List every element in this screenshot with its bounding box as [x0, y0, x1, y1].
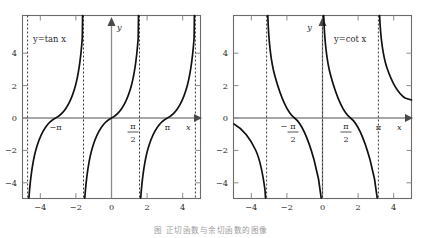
cot-branch-far-left	[234, 124, 266, 198]
chart-panel-tangent: 4 2 0 −2 −4 −4 −2 0 2 4 y=tan x y x −π π…	[0, 0, 211, 238]
tangent-plot-svg: 4 2 0 −2 −4 −4 −2 0 2 4 y=tan x y x −π π…	[0, 0, 211, 238]
pi-over-2-numerator: π	[130, 121, 136, 131]
y-ticklabel-2: 2	[12, 81, 17, 91]
y-ticklabel-neg4: −4	[216, 178, 228, 188]
y-ticklabel-4: 4	[223, 48, 228, 58]
y-ticklabel-neg4: −4	[5, 178, 17, 188]
equation-label-cotangent: y=cot x	[333, 34, 367, 44]
neg-pi-over-2-denominator: 2	[290, 134, 295, 144]
label-pi: π	[165, 122, 171, 132]
x-ticklabel-0: 0	[320, 202, 325, 212]
y-ticklabel-4: 4	[12, 48, 17, 58]
x-ticklabel-4: 4	[180, 202, 185, 212]
neg-pi-over-2-numerator: π	[290, 121, 296, 131]
figure-tan-cot-graphs: 4 2 0 −2 −4 −4 −2 0 2 4 y=tan x y x −π π…	[0, 0, 422, 238]
y-ticklabel-0: 0	[223, 113, 228, 123]
y-ticklabel-neg2: −2	[5, 145, 17, 155]
x-axis-label: x	[186, 122, 191, 132]
x-ticklabel-2: 2	[355, 202, 360, 212]
neg-pi-over-2-sign: −	[281, 121, 288, 131]
label-pi: π	[376, 122, 382, 132]
label-pi-over-2: π 2	[341, 121, 352, 144]
label-neg-pi-over-2: − π 2	[281, 121, 299, 144]
tan-branch-right	[141, 16, 195, 199]
x-ticklabel-4: 4	[391, 202, 396, 212]
y-ticklabel-neg2: −2	[216, 145, 228, 155]
x-ticklabel-neg2: −2	[70, 202, 82, 212]
label-neg-pi: −π	[49, 122, 62, 132]
cot-branch-left	[268, 16, 321, 199]
x-ticklabel-0: 0	[109, 202, 114, 212]
chart-panel-cotangent: 4 2 0 −2 −4 −4 −2 0 2 4 y=cot x y x π − …	[211, 0, 422, 238]
equation-label-tangent: y=tan x	[32, 34, 66, 44]
pi-over-2-denominator: 2	[343, 134, 348, 144]
y-ticklabel-0: 0	[12, 113, 17, 123]
cot-branch-far-right	[380, 16, 412, 101]
y-ticklabel-2: 2	[223, 81, 228, 91]
y-axis-label: y	[306, 22, 312, 32]
figure-caption: 图 正切函数与余切函数的图像	[0, 224, 422, 235]
label-pi-over-2: π 2	[128, 121, 139, 144]
pi-over-2-denominator: 2	[130, 134, 135, 144]
pi-over-2-numerator: π	[343, 121, 349, 131]
y-axis-arrowhead	[108, 17, 116, 26]
y-axis-label: y	[116, 22, 122, 32]
x-ticklabel-2: 2	[144, 202, 149, 212]
x-axis-label: x	[397, 122, 402, 132]
x-ticklabel-neg4: −4	[245, 202, 257, 212]
x-ticklabel-neg4: −4	[34, 202, 46, 212]
cotangent-plot-svg: 4 2 0 −2 −4 −4 −2 0 2 4 y=cot x y x π − …	[211, 0, 422, 238]
x-ticklabel-neg2: −2	[281, 202, 293, 212]
